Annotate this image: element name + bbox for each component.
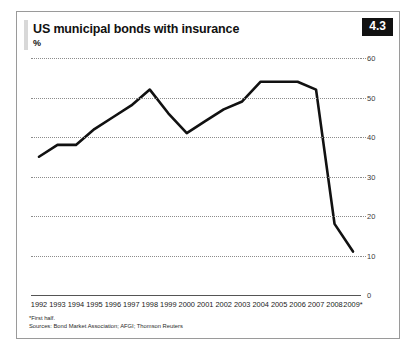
- y-tick-dash-20: [361, 216, 366, 217]
- gridline-60: [31, 58, 361, 59]
- x-axis-tick-label: 1993: [49, 300, 65, 309]
- y-axis-tick-label: 60: [367, 54, 375, 63]
- x-axis-tick-label: 2000: [179, 300, 195, 309]
- y-axis-tick-label: 10: [367, 251, 375, 260]
- page-title: US municipal bonds with insurance: [33, 22, 239, 36]
- x-axis-tick-label: 2009*: [343, 300, 362, 309]
- footnote-sources: Sources: Bond Market Association; AFGI; …: [29, 323, 183, 329]
- x-axis-tick-label: 2006: [289, 300, 305, 309]
- gridline-40: [31, 137, 361, 138]
- figure-number-badge: 4.3: [362, 18, 393, 36]
- y-tick-dash-40: [361, 137, 366, 138]
- y-tick-dash-60: [361, 58, 366, 59]
- y-tick-dash-50: [361, 98, 366, 99]
- y-axis-tick-label: 50: [367, 93, 375, 102]
- x-axis-tick-label: 2007: [308, 300, 324, 309]
- y-tick-dash-10: [361, 256, 366, 257]
- chart-figure: US municipal bonds with insurance % 4.3 …: [16, 11, 400, 339]
- x-axis-tick-label: 1992: [31, 300, 47, 309]
- x-axis-labels: 1992199319941995199619971998199920002001…: [31, 300, 367, 312]
- y-axis-tick-label: 20: [367, 212, 375, 221]
- x-axis-tick-label: 2004: [252, 300, 268, 309]
- y-axis-tick-label: 40: [367, 133, 375, 142]
- title-accent-bar: [24, 20, 28, 50]
- x-axis-tick-label: 1999: [160, 300, 176, 309]
- y-tick-dash-30: [361, 177, 366, 178]
- axis-unit-label: %: [33, 38, 41, 48]
- footnote-first-half: *First half.: [29, 315, 55, 321]
- plot-area: 0102030405060: [31, 58, 361, 295]
- x-axis-tick-label: 2001: [197, 300, 213, 309]
- x-axis-tick-label: 1996: [105, 300, 121, 309]
- gridline-10: [31, 256, 361, 257]
- gridline-0: [31, 295, 361, 296]
- x-axis-tick-label: 1995: [86, 300, 102, 309]
- x-axis-tick-label: 1994: [68, 300, 84, 309]
- y-axis-tick-label: 30: [367, 172, 375, 181]
- gridline-20: [31, 216, 361, 217]
- x-axis-tick-label: 2008: [326, 300, 342, 309]
- gridline-50: [31, 98, 361, 99]
- x-axis-tick-label: 2002: [215, 300, 231, 309]
- gridline-30: [31, 177, 361, 178]
- x-axis-tick-label: 1998: [142, 300, 158, 309]
- x-axis-tick-label: 2003: [234, 300, 250, 309]
- y-axis-tick-label: 0: [367, 291, 371, 300]
- x-axis-tick-label: 2005: [271, 300, 287, 309]
- x-axis-tick-label: 1997: [123, 300, 139, 309]
